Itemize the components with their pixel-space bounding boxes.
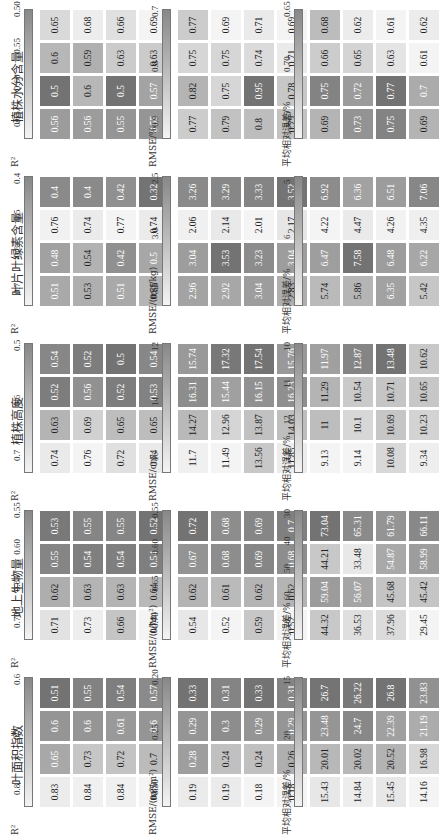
heatmap-cell: 0.63 xyxy=(376,43,406,73)
heatmap-cell: 0.77 xyxy=(178,109,208,139)
colorbar-tick: 15 xyxy=(282,676,292,685)
heatmap-cell: 6.51 xyxy=(376,177,406,207)
heatmap-cell: 0.52 xyxy=(73,344,103,374)
heatmap-cell: 10.54 xyxy=(343,377,373,407)
heatmap-cell: 0.42 xyxy=(106,243,136,273)
colorbar xyxy=(294,510,303,640)
heatmap-cell: 2.06 xyxy=(178,210,208,240)
heatmap-cell: 0.55 xyxy=(106,511,136,541)
heatmap-cell: 26.8 xyxy=(376,678,406,708)
heatmap-cell: 0.77 xyxy=(106,210,136,240)
heatmap-cell: 0.62 xyxy=(178,577,208,607)
colorbar-label: RMSE/cm xyxy=(148,456,158,501)
colorbar xyxy=(24,510,33,640)
heatmap-cell: 0.54 xyxy=(178,610,208,640)
heatmap-cell: 73.04 xyxy=(310,511,340,541)
heatmap-cell: 0.75 xyxy=(178,43,208,73)
heatmap-cell: 0.65 xyxy=(40,10,70,40)
heatmap-cell: 0.73 xyxy=(73,744,103,774)
heatmap-cell: 0.75 xyxy=(211,43,241,73)
colorbar-label: R² xyxy=(10,324,20,334)
panel-title: 植株高度 xyxy=(8,341,25,501)
heatmap-cell: 0.68 xyxy=(310,10,340,40)
heatmap-cell: 0.19 xyxy=(211,777,241,807)
heatmap-cell: 0.24 xyxy=(244,744,274,774)
colorbar-tick: 0.70 xyxy=(282,56,292,72)
heatmap-cell: 0.61 xyxy=(211,577,241,607)
heatmap-cell: 7.58 xyxy=(343,243,373,273)
heatmap-cell: 59.04 xyxy=(310,577,340,607)
heatmap-cell: 0.6 xyxy=(40,711,70,741)
colorbar-tick: 0.8 xyxy=(150,61,160,72)
colorbar-tick: 0.7 xyxy=(150,6,160,17)
colorbar-tick: 0.8 xyxy=(12,784,22,795)
colorbar-tick: 0.75 xyxy=(282,111,292,127)
colorbar-tick: 12 xyxy=(282,415,292,424)
heatmap-cell: 4.35 xyxy=(409,210,439,240)
heatmap-cell: 20.01 xyxy=(310,744,340,774)
colorbar-tick: 50 xyxy=(282,564,292,573)
heatmap-cell: 23.48 xyxy=(310,711,340,741)
heatmap-cell: 0.95 xyxy=(244,76,274,106)
heatmap-cell: 0.55 xyxy=(73,511,103,541)
heatmap-cell: 36.53 xyxy=(343,610,373,640)
heatmap-cell: 0.3 xyxy=(211,711,241,741)
colorbar-tick: 0.7 xyxy=(12,729,22,740)
heatmap-cell: 0.63 xyxy=(40,410,70,440)
heatmap-cell: 17.32 xyxy=(211,344,241,374)
heatmap-cell: 10.71 xyxy=(376,377,406,407)
colorbar xyxy=(294,176,303,306)
heatmap-cell: 0.62 xyxy=(343,10,373,40)
heatmap-cell: 23.83 xyxy=(409,678,439,708)
colorbar-tick: 0.70 xyxy=(12,612,22,628)
heatmap-cell: 0.53 xyxy=(40,511,70,541)
colorbar-tick: 0.65 xyxy=(12,576,22,592)
heatmap-cell: 13.48 xyxy=(376,344,406,374)
heatmap-cell: 3.29 xyxy=(211,177,241,207)
heatmap-cell: 0.4 xyxy=(40,177,70,207)
heatmap-cell: 0.72 xyxy=(106,744,136,774)
colorbar-label: 平均相对误差/% xyxy=(280,268,293,334)
heatmap-cell: 0.33 xyxy=(244,678,274,708)
heatmap-cell: 0.52 xyxy=(40,377,70,407)
colorbar-tick: 0.9 xyxy=(150,116,160,127)
heatmap-cell: 3.53 xyxy=(211,243,241,273)
heatmap-cell: 0.71 xyxy=(40,610,70,640)
heatmap-cell: 5.42 xyxy=(409,276,439,306)
heatmap-cell: 0.29 xyxy=(178,711,208,741)
heatmap-cell: 0.69 xyxy=(310,109,340,139)
heatmap-cell: 10.69 xyxy=(376,410,406,440)
colorbar xyxy=(294,9,303,139)
colorbar-tick: 0.55 xyxy=(150,502,160,518)
heatmap-cell: 0.6 xyxy=(73,711,103,741)
heatmap-cell: 3.26 xyxy=(178,177,208,207)
colorbar-tick: 0.55 xyxy=(12,502,22,518)
heatmap-cell: 14.16 xyxy=(409,777,439,807)
colorbar xyxy=(24,9,33,139)
colorbar-tick: 0.60 xyxy=(12,539,22,555)
heatmap-cell: 0.52 xyxy=(211,610,241,640)
heatmap-cell: 0.66 xyxy=(106,10,136,40)
heatmap-cell: 0.55 xyxy=(73,678,103,708)
colorbar-label: R² xyxy=(10,491,20,501)
heatmap-cell: 13.87 xyxy=(244,410,274,440)
heatmap-cell: 65.31 xyxy=(343,511,373,541)
heatmap-cell: 20.52 xyxy=(376,744,406,774)
heatmap-cell: 0.75 xyxy=(310,76,340,106)
heatmap-cell: 0.83 xyxy=(40,777,70,807)
colorbar xyxy=(294,343,303,473)
heatmap-cell: 0.6 xyxy=(40,43,70,73)
heatmap-cell: 0.76 xyxy=(73,443,103,473)
heatmap-cell: 0.54 xyxy=(73,243,103,273)
heatmap-cell: 0.51 xyxy=(40,678,70,708)
heatmap-cell: 0.69 xyxy=(211,10,241,40)
heatmap-cell: 44.21 xyxy=(310,544,340,574)
colorbar xyxy=(162,176,171,306)
heatmap-cell: 0.69 xyxy=(73,410,103,440)
colorbar xyxy=(162,343,171,473)
heatmap-cell: 16.31 xyxy=(178,377,208,407)
heatmap-cell: 15.44 xyxy=(211,377,241,407)
colorbar-label: R² xyxy=(10,658,20,668)
heatmap-cell: 45.68 xyxy=(376,577,406,607)
colorbar-tick: 0.65 xyxy=(150,576,160,592)
